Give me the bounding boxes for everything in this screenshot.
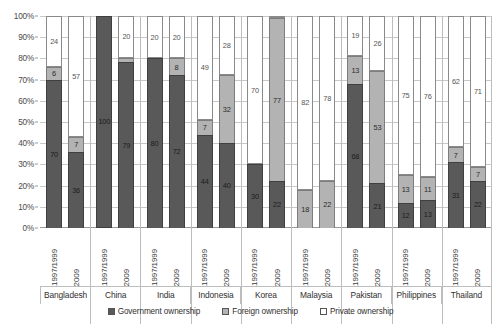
stacked-bar[interactable]: 57736 [68,16,84,228]
bar-segment-foreign[interactable]: 7 [448,147,464,162]
country-label: Pakistan [342,286,392,304]
bar-segment-gov[interactable]: 30 [247,164,263,228]
bar-segment-gov[interactable]: 36 [68,152,84,228]
bar-segment-foreign[interactable]: 7 [197,120,213,135]
stacked-bar[interactable]: 7030 [247,16,263,228]
country-label: Bangladesh [40,286,91,304]
bar-segment-private[interactable]: 49 [197,16,213,120]
stacked-bar[interactable]: 71722 [470,16,486,228]
x-axis-tick-text: 2009 [72,269,81,286]
bar-segment-foreign[interactable]: 13 [347,56,363,84]
country-label: China [91,286,141,304]
bar-segment-value: 26 [374,40,382,47]
bar-segment-foreign[interactable]: 22 [319,181,335,228]
bar-segment-foreign[interactable]: 53 [369,71,385,183]
bar-segment-value: 24 [50,38,58,45]
bar-groups: 2467057736100202792080208724974428324070… [40,16,492,228]
bar-segment-gov[interactable]: 21 [369,183,385,228]
bar-segment-foreign[interactable]: 7 [470,167,486,182]
x-axis-tick-label: 2009 [319,228,335,286]
y-axis-tick-label: 80% [18,54,34,63]
bar-segment-foreign[interactable]: 13 [398,175,414,203]
bar-segment-value: 28 [223,42,231,49]
bar-segment-private[interactable]: 78 [319,16,335,181]
stacked-bar[interactable]: 8218 [297,16,313,228]
bar-segment-foreign[interactable]: 32 [219,75,235,143]
bar-segment-gov[interactable]: 80 [147,58,163,228]
bar-segment-gov[interactable]: 72 [169,75,185,228]
bar-segment-gov[interactable]: 22 [470,181,486,228]
x-axis-tick-label: 2009 [169,228,185,286]
bar-segment-gov[interactable]: 12 [398,203,414,228]
y-axis-tick-label: 40% [18,139,34,148]
x-axis-tick-label: 1997/1999 [147,228,163,286]
bar-segment-gov[interactable]: 100 [96,16,112,228]
bar-segment-gov[interactable]: 44 [197,135,213,228]
x-axis-tick-label: 1997/1999 [398,228,414,286]
stacked-bar[interactable]: 17722 [269,16,285,228]
bar-segment-private[interactable]: 28 [219,16,235,75]
bar-segment-value: 79 [122,142,130,149]
bar-group: 208020872 [140,16,190,228]
bar-segment-private[interactable]: 82 [297,16,313,190]
bar-segment-foreign[interactable]: 18 [297,190,313,228]
country-label: India [141,286,191,304]
bar-segment-gov[interactable]: 40 [219,143,235,228]
x-axis-group: 1997/19992009 [442,228,492,286]
bar-segment-value: 12 [402,212,410,219]
bar-segment-foreign[interactable]: 8 [169,58,185,75]
bar-segment-gov[interactable]: 79 [118,62,134,228]
x-axis-tick-text: 2009 [172,269,181,286]
stacked-bar[interactable]: 20872 [169,16,185,228]
bar-segment-foreign[interactable]: 7 [68,137,84,152]
bar-segment-value: 13 [424,211,432,218]
legend-item-foreign[interactable]: Foreign ownership [222,307,298,316]
bar-segment-foreign[interactable]: 11 [420,177,436,200]
bar-segment-gov[interactable]: 68 [347,84,363,228]
stacked-bar[interactable]: 265321 [369,16,385,228]
stacked-bar[interactable]: 7822 [319,16,335,228]
bar-segment-gov[interactable]: 13 [420,200,436,228]
bar-segment-private[interactable]: 20 [118,16,134,58]
legend-swatch-foreign-icon [222,308,229,315]
stacked-bar[interactable]: 49744 [197,16,213,228]
bar-segment-private[interactable]: 20 [147,16,163,58]
legend-item-gov[interactable]: Government ownership [108,307,201,316]
bar-segment-private[interactable]: 26 [369,16,385,71]
legend-swatch-private-icon [320,308,327,315]
stacked-bar[interactable]: 100 [96,16,112,228]
y-axis-tick-mark [35,16,38,17]
bar-segment-foreign[interactable]: 77 [269,18,285,181]
stacked-bar[interactable]: 761113 [420,16,436,228]
bar-segment-foreign[interactable]: 6 [46,67,62,80]
legend-item-private[interactable]: Private ownership [320,307,393,316]
bar-segment-private[interactable]: 19 [347,16,363,56]
bar-segment-private[interactable]: 70 [247,16,263,164]
stacked-bar[interactable]: 751312 [398,16,414,228]
bar-segment-value: 19 [351,32,359,39]
bar-segment-private[interactable]: 20 [169,16,185,58]
bar-group: 82187822 [291,16,341,228]
x-axis-tick-label: 1997/1999 [448,228,464,286]
bar-segment-private[interactable]: 57 [68,16,84,137]
bar-segment-value: 7 [203,124,207,131]
bar-segment-gov[interactable]: 31 [448,162,464,228]
bar-segment-gov[interactable]: 70 [46,80,62,228]
stacked-bar[interactable]: 20279 [118,16,134,228]
stacked-bar[interactable]: 62731 [448,16,464,228]
x-axis-tick-text: 1997/1999 [301,249,310,286]
bar-segment-gov[interactable]: 22 [269,181,285,228]
stacked-bar[interactable]: 24670 [46,16,62,228]
bar-segment-private[interactable]: 75 [398,16,414,175]
bar-segment-value: 20 [151,34,159,41]
bar-segment-private[interactable]: 71 [470,16,486,167]
stacked-bar[interactable]: 191368 [347,16,363,228]
bar-segment-private[interactable]: 24 [46,16,62,67]
stacked-bar[interactable]: 283240 [219,16,235,228]
bar-segment-private[interactable]: 62 [448,16,464,147]
y-axis-tick-mark [35,143,38,144]
bar-segment-private[interactable]: 76 [420,16,436,177]
x-axis-tick-text: 1997/1999 [250,249,259,286]
stacked-bar[interactable]: 2080 [147,16,163,228]
y-axis-tick-label: 90% [18,33,34,42]
